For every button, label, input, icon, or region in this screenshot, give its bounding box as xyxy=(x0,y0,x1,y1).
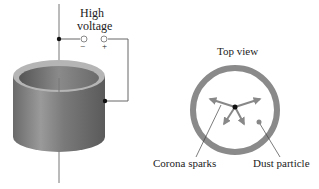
center-wire-dot xyxy=(233,105,238,110)
dust-particle-label: Dust particle xyxy=(253,158,310,169)
high-voltage-label-line1: High xyxy=(80,7,104,19)
top-view-label: Top view xyxy=(217,46,258,57)
junction-dot xyxy=(57,37,61,41)
top-view-ring xyxy=(193,68,277,152)
dust-particle-dot xyxy=(257,120,262,125)
junction-dot xyxy=(103,99,107,103)
cylinder-electrode xyxy=(13,60,105,152)
corona-sparks-label: Corona sparks xyxy=(153,158,216,169)
high-voltage-label-line2: voltage xyxy=(77,20,112,32)
minus-terminal-label: − xyxy=(80,42,85,51)
plus-terminal-label: + xyxy=(102,42,107,51)
